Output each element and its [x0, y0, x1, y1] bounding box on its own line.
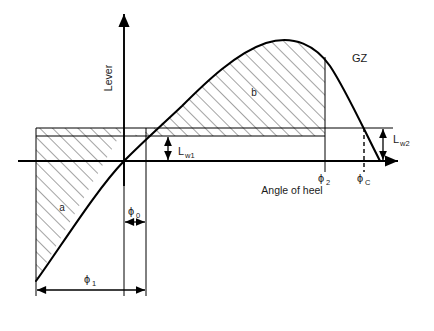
- area-b-label: b: [251, 87, 257, 98]
- y-axis-label: Lever: [102, 64, 114, 91]
- lever-lw2-base: L: [393, 133, 399, 145]
- area-b-hatching: [124, 40, 325, 136]
- angle-phic-subscript: C: [365, 178, 371, 187]
- angle-phi1-label: ϕ 1: [84, 273, 96, 288]
- lever-lw1-subscript: w1: [184, 151, 195, 160]
- angle-phi1-base: ϕ: [84, 273, 90, 285]
- angle-phic-label: ϕ C: [357, 172, 371, 187]
- angle-phi0-subscript: 0: [136, 211, 140, 220]
- lever-lw2-subscript: w2: [399, 139, 410, 148]
- angle-phi0-base: ϕ: [128, 205, 134, 217]
- lever-lw1-base: L: [178, 145, 184, 157]
- x-axis-label: Angle of heel: [261, 184, 322, 196]
- gz-curve-diagram: Lever Angle of heel GZ a b L w1 L w2: [0, 0, 434, 331]
- gz-curve-label-text: GZ: [352, 52, 368, 64]
- area-b-label-text: b: [251, 87, 257, 98]
- x-axis-label-text: Angle of heel: [261, 184, 322, 196]
- angle-phic-base: ϕ: [357, 172, 363, 184]
- diagram-canvas: Lever Angle of heel GZ a b L w1 L w2: [0, 0, 434, 331]
- y-axis-label-text: Lever: [102, 64, 114, 91]
- angle-phi1-subscript: 1: [92, 279, 96, 288]
- angle-phi2-subscript: 2: [326, 178, 330, 187]
- lever-lw2-label: L w2: [393, 133, 410, 148]
- angle-phi0-label: ϕ 0: [128, 205, 140, 220]
- area-a-label-text: a: [59, 202, 65, 213]
- area-a-hatching: [36, 128, 124, 281]
- angle-phi2-base: ϕ: [318, 172, 324, 184]
- area-a-label: a: [59, 202, 65, 213]
- lever-lw1-label: L w1: [178, 145, 195, 160]
- gz-curve-label: GZ: [352, 52, 368, 64]
